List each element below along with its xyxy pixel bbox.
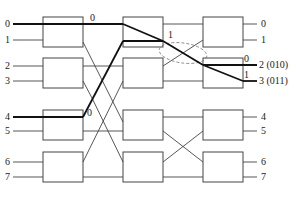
input-label-6: 6 <box>5 156 10 167</box>
stage2-switch-2 <box>123 110 163 140</box>
stage3-switch-0 <box>203 17 243 47</box>
output-label-3: 3 (011) <box>259 75 288 87</box>
output-label-4: 4 <box>261 111 266 122</box>
path-label-stage1-in4: 0 <box>87 107 92 118</box>
input-label-2: 2 <box>5 60 10 71</box>
stage3-switch-2 <box>203 110 243 140</box>
path-label-stage2-out: 1 <box>168 29 173 40</box>
path-label-stage3-top: 0 <box>244 53 249 64</box>
input-label-0: 0 <box>5 18 10 29</box>
stage3-switch-3 <box>203 152 243 182</box>
stage1-switch-0 <box>43 17 83 47</box>
stage2-switch-1 <box>123 58 163 88</box>
output-label-7: 7 <box>261 171 266 182</box>
input-label-4: 4 <box>5 111 10 122</box>
network-diagram: 0 1 2 3 4 5 6 7 <box>0 0 296 200</box>
stage2-switch-3 <box>123 152 163 182</box>
output-label-1: 1 <box>261 34 266 45</box>
input-label-5: 5 <box>5 125 10 136</box>
input-label-7: 7 <box>5 171 10 182</box>
output-label-5: 5 <box>261 125 266 136</box>
output-label-0: 0 <box>261 18 266 29</box>
path-label-stage1-out: 0 <box>90 12 95 23</box>
output-label-2: 2 (010) <box>259 59 288 71</box>
path-label-stage3-bottom: 1 <box>244 69 249 80</box>
stage1-switch-1 <box>43 58 83 88</box>
stage1-switch-3 <box>43 152 83 182</box>
input-lines <box>13 40 43 177</box>
input-label-3: 3 <box>5 75 10 86</box>
input-label-1: 1 <box>5 34 10 45</box>
stage1-switch-2 <box>43 110 83 140</box>
links-stage2-stage3 <box>163 24 203 177</box>
output-label-6: 6 <box>261 156 266 167</box>
output-lines <box>243 24 257 177</box>
